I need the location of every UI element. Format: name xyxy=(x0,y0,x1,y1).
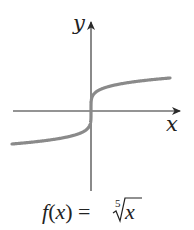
radicand: x xyxy=(125,199,135,225)
y-axis-label: y xyxy=(73,13,85,34)
root-index: 5 xyxy=(115,197,121,209)
x-axis-label: x xyxy=(166,114,178,135)
function-formula: f(x) = 5 x xyxy=(42,196,142,226)
formula-lhs: f(x) = xyxy=(42,199,90,225)
